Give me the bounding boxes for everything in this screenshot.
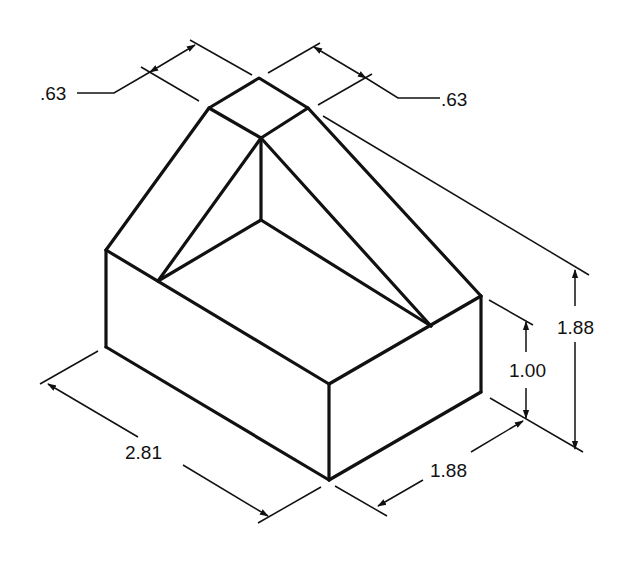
dimension-line-lower <box>378 480 423 506</box>
dimension-depth: 1.88 <box>335 421 523 516</box>
leader-line <box>366 78 440 98</box>
extension-line <box>489 300 533 325</box>
leader-line <box>77 72 150 93</box>
dimension-length: 2.81 <box>40 351 321 523</box>
dimension-line-right <box>183 465 268 516</box>
extension-line <box>258 487 321 523</box>
extension-line <box>190 40 252 75</box>
extension-line <box>40 351 98 384</box>
left-slope-edge <box>106 108 209 250</box>
right-slope-edge <box>308 108 481 296</box>
dimension-line-left <box>48 384 138 437</box>
dimension-label: 1.00 <box>509 360 546 381</box>
box-top-front-left-edge <box>106 250 329 384</box>
dimension-label: .63 <box>40 83 66 104</box>
dimension-label: .63 <box>441 89 467 110</box>
inner-floor-left-edge <box>158 220 261 281</box>
inner-floor-right-edge <box>261 220 431 326</box>
inner-right-slope-edge <box>261 138 431 326</box>
extension-line <box>318 74 372 105</box>
extension-line <box>268 43 320 73</box>
dimension-top-left: .63 <box>40 40 252 104</box>
extension-line <box>335 486 387 516</box>
isometric-drawing: .63 .63 1.88 1.00 1.88 2.81 <box>0 0 638 567</box>
dimension-base-height: 1.00 <box>489 300 546 418</box>
dimension-label: 2.81 <box>125 442 162 463</box>
dimension-line <box>314 47 366 78</box>
extension-line-overall-bottom <box>490 398 583 452</box>
dimension-line <box>150 45 195 72</box>
top-cap-face <box>209 78 308 138</box>
dimension-label: 1.88 <box>557 317 594 338</box>
object-outline <box>106 78 481 480</box>
dimension-line-upper <box>471 421 523 452</box>
dimension-label: 1.88 <box>430 460 467 481</box>
